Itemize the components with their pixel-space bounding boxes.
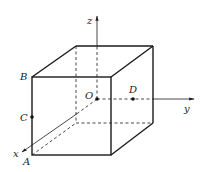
point-D [131,97,135,101]
hidden-edge-bottom-left-depth [32,123,76,155]
x-axis [22,113,78,152]
edge-top-left-depth [32,46,76,77]
point-B-label: B [19,71,27,82]
x-axis-hidden-segment [78,99,97,113]
point-C-label: C [20,112,28,123]
front-face [32,77,111,155]
z-axis-label: z [86,15,93,26]
point-D-label: D [128,84,137,95]
edge-top-right-depth [111,46,153,77]
x-axis-label: x [13,148,19,159]
point-A-label: A [22,156,30,167]
point-O [95,97,99,101]
point-C [30,115,34,119]
y-axis-label: y [183,103,190,114]
edge-bottom-right-depth [111,123,153,155]
origin-label: O [85,90,93,101]
cube-diagram: z y x O D B C A [0,0,204,172]
